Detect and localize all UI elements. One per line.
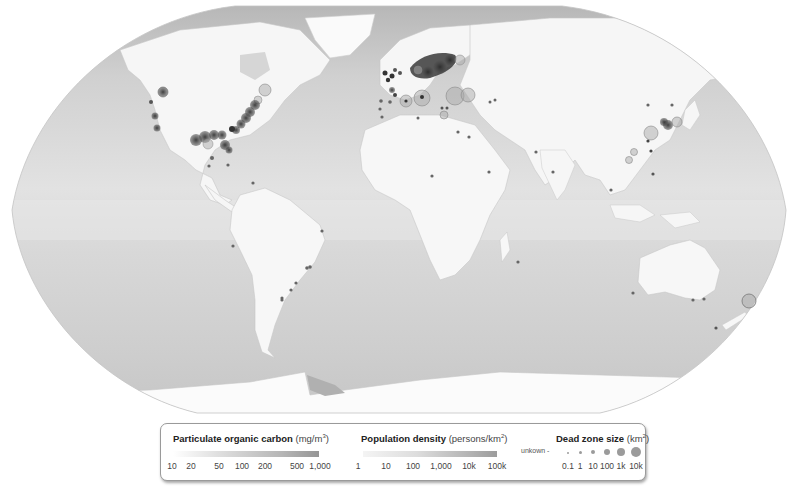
population-color-scale — [363, 451, 497, 457]
world-map — [0, 0, 797, 420]
globe — [0, 0, 797, 420]
poc-color-scale — [173, 451, 319, 457]
legend-population-density: Population density (persons/km2) 1 10 10… — [351, 424, 521, 480]
map-legend: Particulate organic carbon (mg/m3) 10 20… — [160, 423, 646, 481]
world-map-graphic — [0, 0, 797, 420]
legend-particulate-organic-carbon: Particulate organic carbon (mg/m3) 10 20… — [161, 424, 341, 480]
legend-dead-zone-size: Dead zone size (km2) unkown - 0.1 1 10 1… — [521, 424, 647, 480]
legend-dead-zone-title: Dead zone size (km2) — [556, 433, 649, 444]
dead-zone-unknown-label: unkown - — [521, 447, 549, 454]
legend-population-title: Population density (persons/km2) — [361, 433, 507, 444]
legend-poc-title: Particulate organic carbon (mg/m3) — [173, 433, 329, 444]
